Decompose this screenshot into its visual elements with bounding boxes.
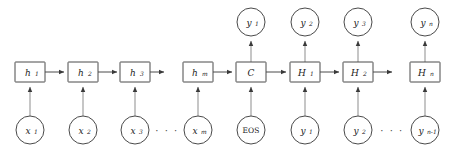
y-nminus1-in-circle-sub: n-1 (427, 128, 437, 135)
H-n-box[interactable]: H n (410, 62, 440, 82)
y-nminus1-in-circle-label: y (417, 126, 424, 136)
eos-circle-label: EOS (243, 126, 260, 135)
seq2seq-diagram: h 1 h 2 h 3 h m C H 1 H (0, 0, 454, 149)
y-2-in-circle[interactable]: y 2 (344, 116, 372, 144)
H-1-box-label: H (297, 68, 306, 78)
diagram-canvas: h 1 h 2 h 3 h m C H 1 H (0, 0, 454, 149)
x-2-circle-label: x (78, 126, 83, 136)
h-3-box-sub: 3 (140, 70, 144, 77)
H-n-box-label: H (417, 68, 426, 78)
y-n-out-circle-sub: n (429, 20, 433, 27)
eos-circle[interactable]: EOS (237, 116, 265, 144)
h-m-box-label: h (192, 68, 198, 78)
H-1-box[interactable]: H 1 (290, 62, 320, 82)
c-box-label: C (248, 68, 255, 78)
y-1-in-circle-sub: 1 (309, 128, 313, 135)
x-3-circle-label: x (130, 126, 135, 136)
x-m-circle-sub: m (201, 128, 207, 135)
y-2-out-circle-label: y (299, 18, 306, 28)
H-1-box-sub: 1 (310, 70, 314, 77)
H-2-box-sub: 2 (362, 70, 367, 77)
y-1-out-circle-sub: 1 (255, 20, 259, 27)
x-2-circle-sub: 2 (86, 128, 91, 135)
h-2-box-label: h (78, 68, 84, 78)
h-1-box[interactable]: h 1 (15, 62, 45, 82)
x-m-circle[interactable]: x m (184, 116, 212, 144)
input-to-hidden-edges (30, 87, 425, 116)
x-2-circle[interactable]: x 2 (69, 116, 97, 144)
h-3-box-label: h (130, 68, 136, 78)
y-2-in-circle-sub: 2 (361, 128, 366, 135)
y-1-out-circle-label: y (245, 18, 252, 28)
y-3-out-circle[interactable]: y 3 (344, 8, 372, 36)
decoder-input-ellipsis: · · · (380, 125, 403, 136)
x-1-circle[interactable]: x 1 (16, 116, 44, 144)
h-2-box-sub: 2 (87, 70, 92, 77)
encoder-input-ellipsis: · · · (155, 125, 178, 136)
y-3-out-circle-label: y (352, 18, 359, 28)
y-n-out-circle-label: y (419, 18, 426, 28)
y-1-out-circle[interactable]: y 1 (237, 8, 265, 36)
x-1-circle-label: x (25, 126, 30, 136)
h-m-box[interactable]: h m (183, 62, 213, 82)
y-3-out-circle-sub: 3 (362, 20, 366, 27)
h-1-box-label: h (25, 68, 31, 78)
H-2-box[interactable]: H 2 (343, 62, 373, 82)
h-2-box[interactable]: h 2 (68, 62, 98, 82)
H-2-box-label: H (350, 68, 359, 78)
h-1-box-sub: 1 (35, 70, 39, 77)
y-2-out-circle[interactable]: y 2 (291, 8, 319, 36)
H-n-box-sub: n (430, 70, 434, 77)
y-1-in-circle[interactable]: y 1 (291, 116, 319, 144)
c-box[interactable]: C (236, 62, 266, 82)
y-2-out-circle-sub: 2 (308, 20, 313, 27)
h-m-box-sub: m (202, 70, 208, 77)
x-m-circle-label: x (192, 126, 197, 136)
y-n-out-circle[interactable]: y n (411, 8, 439, 36)
hidden-to-output-edges (251, 41, 425, 62)
x-1-circle-sub: 1 (34, 128, 38, 135)
y-2-in-circle-label: y (352, 126, 359, 136)
h-3-box[interactable]: h 3 (120, 62, 150, 82)
y-1-in-circle-label: y (299, 126, 306, 136)
x-3-circle-sub: 3 (139, 128, 143, 135)
y-nminus1-in-circle[interactable]: y n-1 (411, 116, 439, 144)
x-3-circle[interactable]: x 3 (121, 116, 149, 144)
